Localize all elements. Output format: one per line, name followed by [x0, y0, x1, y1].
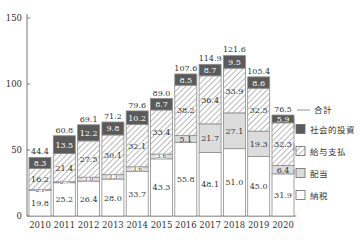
value-label: 16.2 — [31, 175, 49, 184]
total-label: 60.8 — [55, 126, 73, 135]
value-label: 33.9 — [225, 87, 243, 96]
y-tick-label: 150 — [6, 13, 22, 23]
value-label: 5.9 — [277, 115, 290, 124]
x-tick-label: 2013 — [102, 220, 124, 230]
value-label: 19.3 — [250, 140, 268, 149]
value-label: 45.0 — [250, 182, 268, 191]
legend-swatch — [296, 147, 305, 156]
total-label: 107.6 — [174, 64, 197, 73]
legend-label-total: 合計 — [314, 105, 332, 115]
value-label: 19.8 — [31, 199, 49, 208]
value-label: 21.7 — [201, 134, 219, 143]
value-label: 48.1 — [201, 180, 219, 189]
value-label: 8.3 — [34, 159, 47, 168]
value-label: 30.1 — [104, 151, 122, 160]
value-label: 36.4 — [201, 96, 219, 105]
value-label: 51.0 — [225, 178, 243, 187]
total-label: 44.4 — [31, 147, 49, 156]
bar-2013: 28.03.330.19.871.2 — [102, 112, 124, 216]
value-label: 31.9 — [274, 191, 292, 200]
value-label: 5.1 — [179, 135, 192, 144]
value-label: 33.4 — [153, 128, 171, 137]
legend-label: 給与支払 — [310, 147, 346, 157]
value-label: 8.5 — [179, 76, 192, 85]
bar-2016: 55.85.138.28.5107.6 — [174, 64, 197, 216]
value-label: 27.1 — [225, 127, 243, 136]
value-label: 10.2 — [128, 114, 146, 123]
stacked-bar-chart: 0501001502010201120122013201420152016201… — [0, 0, 362, 240]
value-label: 13.5 — [55, 141, 73, 150]
x-tick-label: 2014 — [126, 220, 148, 230]
value-label: 8.7 — [155, 100, 168, 109]
x-tick-label: 2019 — [248, 220, 270, 230]
bar-2018: 51.027.133.99.5121.6 — [223, 45, 246, 216]
total-label: 114.9 — [199, 54, 222, 63]
value-label: 32.5 — [250, 106, 268, 115]
legend: 合計社会的投資給与支払配当納税 — [294, 105, 355, 200]
value-label: 28.0 — [104, 194, 122, 203]
x-tick-label: 2011 — [53, 220, 75, 230]
value-label: 43.3 — [153, 183, 171, 192]
value-label: 32.1 — [128, 142, 146, 151]
legend-swatch — [296, 125, 305, 134]
value-label: 9.5 — [228, 58, 241, 67]
x-tick-label: 2017 — [199, 220, 221, 230]
legend-label: 社会的投資 — [310, 125, 355, 135]
value-label: 6.4 — [277, 166, 290, 175]
bar-2020: 31.96.432.35.976.5 — [272, 105, 294, 216]
value-label: 25.2 — [55, 195, 73, 204]
total-label: 76.5 — [274, 105, 292, 114]
chart-canvas: 0501001502010201120122013201420152016201… — [0, 0, 362, 240]
x-tick-label: 2016 — [175, 220, 197, 230]
value-label: 8.6 — [252, 79, 265, 88]
x-tick-label: 2012 — [78, 220, 100, 230]
total-label: 71.2 — [104, 112, 122, 121]
bar-2012: 26.43.027.512.269.1 — [78, 115, 100, 216]
value-label: 12.2 — [80, 129, 98, 138]
y-tick-label: 100 — [6, 79, 22, 89]
value-label: 27.5 — [80, 155, 98, 164]
total-label: 69.1 — [80, 115, 98, 124]
value-label: 26.4 — [80, 195, 98, 204]
value-label: 21.4 — [55, 164, 73, 173]
y-tick-label: 0 — [17, 211, 22, 221]
value-label: 33.7 — [128, 190, 146, 199]
total-label: 105.4 — [247, 67, 270, 76]
x-tick-label: 2010 — [29, 220, 51, 230]
x-tick-label: 2018 — [224, 220, 246, 230]
value-label: 55.8 — [177, 175, 195, 184]
x-tick-label: 2015 — [151, 220, 173, 230]
value-label: 8.7 — [204, 66, 217, 75]
legend-label: 配当 — [310, 169, 328, 179]
bar-2015: 43.33.633.48.789.0 — [151, 89, 173, 216]
bar-2010: 19.80.116.28.344.4 — [29, 147, 51, 216]
value-label: 9.8 — [107, 124, 120, 133]
total-label: 79.6 — [128, 101, 146, 110]
bar-2014: 33.73.632.110.279.6 — [126, 101, 148, 216]
bar-2017: 48.121.736.48.7114.9 — [199, 54, 222, 216]
bars: 19.80.116.28.344.425.20.721.413.560.826.… — [29, 45, 294, 216]
total-label: 121.6 — [223, 45, 246, 54]
legend-label: 納税 — [310, 191, 328, 201]
legend-swatch — [296, 169, 305, 178]
bar-2011: 25.20.721.413.560.8 — [53, 126, 75, 216]
total-label: 89.0 — [153, 89, 171, 98]
y-tick-label: 50 — [11, 145, 22, 155]
value-label: 32.3 — [274, 140, 292, 149]
bar-2019: 45.019.332.58.6105.4 — [247, 67, 270, 216]
legend-swatch — [296, 191, 305, 200]
value-label: 38.2 — [177, 106, 195, 115]
x-tick-label: 2020 — [272, 220, 294, 230]
